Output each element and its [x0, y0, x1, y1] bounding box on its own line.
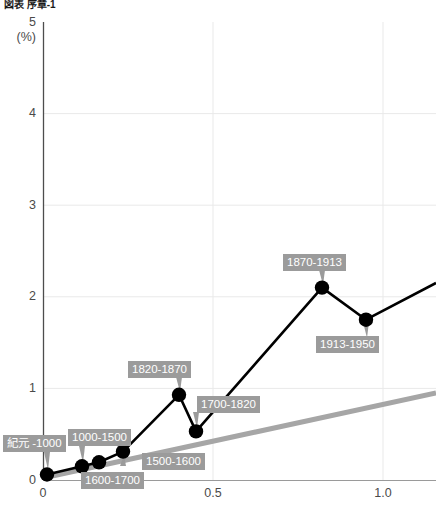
annotation-1870-1913: 1870-1913 — [283, 254, 346, 271]
x-axis-tick-0-5: 0.5 — [193, 486, 233, 500]
y-axis-tick-1: 1 — [10, 381, 36, 395]
data-point-marker — [40, 467, 54, 481]
annotation-1913-1950: 1913-1950 — [316, 336, 379, 353]
data-point-marker — [189, 424, 203, 438]
annotation-1600-1700: 1600-1700 — [81, 472, 144, 489]
annotation-1500-1600: 1500-1600 — [142, 453, 205, 470]
annotation-kigen-1000: 紀元 -1000 — [3, 435, 66, 452]
data-point-marker — [172, 388, 186, 402]
data-point-marker — [315, 280, 329, 294]
annotation-1700-1820: 1700-1820 — [197, 396, 260, 413]
series-markers-main — [40, 280, 373, 481]
data-point-marker — [92, 455, 106, 469]
x-axis-tick-0: 0 — [23, 486, 63, 500]
chart-figure: 図表 序章-1 — [0, 0, 436, 513]
y-axis-tick-2: 2 — [10, 289, 36, 303]
data-point-marker — [359, 313, 373, 327]
annotation-1820-1870: 1820-1870 — [128, 361, 191, 378]
y-axis-unit-label: (%) — [2, 30, 36, 44]
annotation-1000-1500: 1000-1500 — [68, 429, 131, 446]
y-axis-tick-5: 5 — [2, 15, 36, 29]
x-axis-tick-1-0: 1.0 — [363, 486, 403, 500]
y-axis-tick-3: 3 — [10, 198, 36, 212]
y-axis-tick-4: 4 — [10, 106, 36, 120]
y-axis-tick-0: 0 — [10, 473, 36, 487]
data-point-marker — [116, 444, 130, 458]
